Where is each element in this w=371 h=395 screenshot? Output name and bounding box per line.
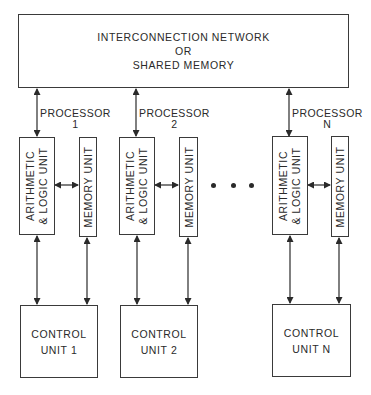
shared-line-3: SHARED MEMORY: [133, 58, 235, 72]
interconnection-network-box: INTERCONNECTION NETWORK OR SHARED MEMORY: [18, 14, 349, 88]
control-unit-box-n: CONTROL UNIT N: [272, 304, 351, 377]
alu-box-1: ARITHMETIC & LOGIC UNIT: [19, 137, 55, 235]
shared-line-1: INTERCONNECTION NETWORK: [97, 30, 269, 44]
memory-unit-box-1: MEMORY UNIT: [79, 137, 97, 237]
processor-label-2: PROCESSOR 2: [139, 108, 210, 130]
memory-unit-box-n: MEMORY UNIT: [331, 136, 349, 237]
shared-line-2: OR: [175, 44, 192, 58]
processor-label-n: PROCESSOR N: [292, 108, 363, 130]
control-unit-box-2: CONTROL UNIT 2: [120, 305, 198, 378]
memory-unit-box-2: MEMORY UNIT: [179, 137, 198, 237]
processor-label-1: PROCESSOR 1: [40, 108, 111, 130]
ellipsis-dot-icon: [211, 183, 216, 188]
alu-box-n: ARITHMETIC & LOGIC UNIT: [272, 136, 308, 235]
alu-box-2: ARITHMETIC & LOGIC UNIT: [119, 137, 155, 235]
ellipsis-dot-icon: [231, 183, 236, 188]
ellipsis-dot-icon: [249, 183, 254, 188]
control-unit-box-1: CONTROL UNIT 1: [20, 305, 98, 378]
